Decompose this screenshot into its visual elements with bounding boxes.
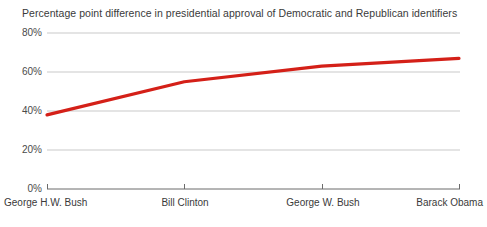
data-series-group [47, 58, 459, 115]
x-tick-label-bill-clinton: Bill Clinton [145, 197, 225, 208]
x-tick-label-barack-obama: Barack Obama [379, 197, 483, 208]
x-tick-label-george-hw-bush: George H.W. Bush [4, 197, 87, 208]
y-tick-label-60: 60% [2, 67, 42, 77]
chart-figure: Percentage point difference in president… [0, 0, 487, 227]
y-tick-label-20: 20% [2, 145, 42, 155]
data-line-approval-gap [47, 58, 459, 115]
y-tick-label-0: 0% [2, 184, 42, 194]
chart-canvas [0, 0, 487, 227]
plot-area: 80% 60% 40% 20% 0% George H.W. Bush Bill… [0, 0, 487, 227]
x-axis [47, 184, 460, 189]
y-tick-label-80: 80% [2, 28, 42, 38]
x-tick-label-george-w-bush: George W. Bush [276, 197, 370, 208]
y-tick-label-40: 40% [2, 106, 42, 116]
gridlines [47, 33, 460, 150]
